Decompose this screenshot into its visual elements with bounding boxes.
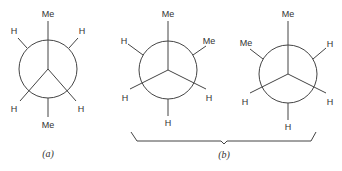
back-bond-upper-left xyxy=(18,38,27,48)
front-bond-lower-left xyxy=(250,74,288,93)
label-front-lower-left: H xyxy=(242,97,249,107)
label-back-upper-left: H xyxy=(11,26,18,36)
newman-projection-b2: Me Me H H H H xyxy=(240,9,334,132)
caption-a: (a) xyxy=(42,148,54,160)
label-front-top: Me xyxy=(162,9,175,19)
label-back-upper-left: Me xyxy=(240,38,253,48)
label-back-upper-right: H xyxy=(79,26,86,36)
front-bond-lower-right xyxy=(288,74,326,93)
newman-projection-figure: Me H H H H Me (a) Me H Me H H H Me Me H … xyxy=(0,0,342,171)
label-back-upper-left: H xyxy=(121,36,128,46)
back-bond-upper-right xyxy=(313,48,326,59)
newman-projection-b1: Me H Me H H H xyxy=(121,9,216,128)
front-bond-lower-right xyxy=(168,70,206,89)
label-front-lower-right: H xyxy=(327,97,334,107)
label-back-upper-right: H xyxy=(327,39,334,49)
label-back-bottom: H xyxy=(165,118,172,128)
back-bond-upper-right xyxy=(69,38,78,48)
label-back-upper-right: Me xyxy=(203,36,216,46)
label-front-lower-right: H xyxy=(206,93,213,103)
label-front-lower-left: H xyxy=(11,104,18,114)
label-front-top: Me xyxy=(42,9,55,19)
front-bond-lower-left xyxy=(130,70,168,89)
group-brace xyxy=(131,132,316,144)
label-back-bottom: H xyxy=(285,122,292,132)
caption-b: (b) xyxy=(218,149,230,161)
label-front-top: Me xyxy=(282,9,295,19)
label-front-lower-right: H xyxy=(78,104,85,114)
back-bond-upper-left xyxy=(250,49,263,59)
back-bond-upper-left xyxy=(128,44,143,55)
label-back-bottom: Me xyxy=(42,120,55,130)
back-bond-upper-right xyxy=(193,46,206,55)
label-front-lower-left: H xyxy=(122,93,129,103)
newman-projection-a: Me H H H H Me (a) xyxy=(11,9,86,160)
